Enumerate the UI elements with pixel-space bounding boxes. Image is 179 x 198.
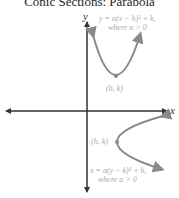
- right-condition: where a > 0: [98, 175, 137, 184]
- upper-vertex-label: (h, k): [106, 84, 123, 93]
- right-equation: x = a(y − k)² + h,: [90, 166, 147, 175]
- right-vertex-label: (h, k): [91, 137, 108, 146]
- right-vertex-point: [115, 140, 119, 144]
- upper-equation: y = a(x − h)² + k,: [99, 14, 156, 23]
- upper-parabola-curve: [93, 35, 140, 75]
- upper-condition: where a > 0: [108, 23, 147, 32]
- right-parabola-curve: [117, 116, 163, 169]
- upper-vertex-point: [114, 74, 118, 78]
- x-axis-label: x: [170, 104, 175, 116]
- y-axis-label: y: [83, 10, 88, 22]
